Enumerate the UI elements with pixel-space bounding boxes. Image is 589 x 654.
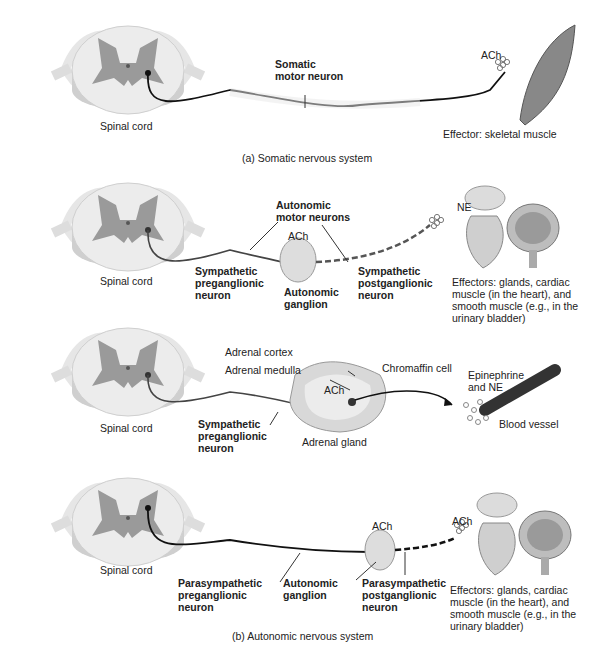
ganglion-label-b1-1: Autonomic bbox=[284, 286, 339, 298]
effectors-label-b1-1: Effectors: glands, cardiac bbox=[452, 276, 570, 288]
somatic-neuron-label-1: Somatic bbox=[275, 58, 316, 70]
sympathetic-pre-label-1: Sympathetic bbox=[195, 265, 257, 277]
parasympathetic-post-label-2: postganglionic bbox=[362, 589, 437, 601]
sympathetic-pre-b2-label-3: neuron bbox=[198, 442, 234, 454]
ganglion-label-b3-1: Autonomic bbox=[283, 577, 338, 589]
parasympathetic-post-label-1: Parasympathetic bbox=[362, 577, 446, 589]
spinal-cord-label-b2: Spinal cord bbox=[100, 422, 153, 434]
effectors-label-b1-2: muscle (in the heart), and bbox=[452, 288, 571, 300]
effectors-label-b3-1: Effectors: glands, cardiac bbox=[450, 584, 568, 596]
sympathetic-post-label-2: postganglionic bbox=[358, 277, 433, 289]
ganglion-label-b1-2: ganglion bbox=[284, 298, 328, 310]
ach-label-a: ACh bbox=[481, 49, 501, 61]
ach-label-b2: ACh bbox=[324, 384, 344, 396]
adrenal-cortex-label: Adrenal cortex bbox=[225, 346, 293, 358]
sympathetic-pre-b2-label-1: Sympathetic bbox=[198, 418, 260, 430]
epinephrine-label-1: Epinephrine bbox=[468, 369, 524, 381]
sympathetic-pre-b2-label-2: preganglionic bbox=[198, 430, 267, 442]
ach-ganglion-label-b3: ACh bbox=[372, 520, 392, 532]
sympathetic-post-label-1: Sympathetic bbox=[358, 265, 420, 277]
epinephrine-label-2: and NE bbox=[468, 381, 503, 393]
somatic-neuron-label-2: motor neuron bbox=[275, 70, 343, 82]
ach-label-b1: ACh bbox=[288, 230, 308, 242]
ne-label-b1: NE bbox=[457, 201, 472, 213]
effectors-label-b3-2: muscle (in the heart), and bbox=[450, 596, 569, 608]
sympathetic-pre-label-3: neuron bbox=[195, 289, 231, 301]
diagram-artwork bbox=[0, 0, 589, 654]
effectors-label-b3-4: urinary bladder) bbox=[450, 620, 524, 632]
effectors-label-b1-3: smooth muscle (e.g., in the bbox=[452, 300, 578, 312]
chromaffin-cell-label: Chromaffin cell bbox=[382, 362, 452, 374]
effector-label-a: Effector: skeletal muscle bbox=[443, 128, 557, 140]
autonomic-motor-label-2: motor neurons bbox=[276, 211, 350, 223]
parasympathetic-pre-label-2: preganglionic bbox=[178, 589, 247, 601]
effectors-label-b3-3: smooth muscle (e.g., in the bbox=[450, 608, 576, 620]
effectors-label-b1-4: urinary bladder) bbox=[452, 312, 526, 324]
spinal-cord-label-b3: Spinal cord bbox=[100, 564, 153, 576]
adrenal-medulla-label: Adrenal medulla bbox=[225, 364, 301, 376]
parasympathetic-pre-label-1: Parasympathetic bbox=[178, 577, 262, 589]
parasympathetic-pre-label-3: neuron bbox=[178, 601, 214, 613]
caption-b: (b) Autonomic nervous system bbox=[232, 630, 373, 642]
sympathetic-post-label-3: neuron bbox=[358, 289, 394, 301]
blood-vessel-label: Blood vessel bbox=[499, 418, 559, 430]
spinal-cord-label-a: Spinal cord bbox=[100, 120, 153, 132]
ach-effector-label-b3: ACh bbox=[452, 515, 472, 527]
sympathetic-pre-label-2: preganglionic bbox=[195, 277, 264, 289]
parasympathetic-post-label-3: neuron bbox=[362, 601, 398, 613]
spinal-cord-label-b1: Spinal cord bbox=[100, 275, 153, 287]
caption-a: (a) Somatic nervous system bbox=[242, 152, 372, 164]
ganglion-label-b3-2: ganglion bbox=[283, 589, 327, 601]
autonomic-motor-label-1: Autonomic bbox=[276, 199, 331, 211]
adrenal-gland-label: Adrenal gland bbox=[302, 436, 367, 448]
